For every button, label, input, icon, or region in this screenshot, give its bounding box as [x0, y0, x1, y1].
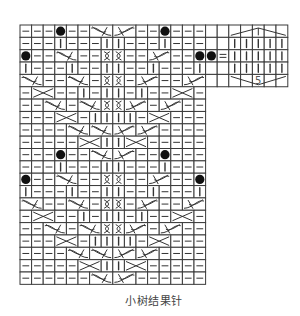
chart-row — [20, 136, 206, 148]
chart-row — [20, 50, 206, 62]
chart-row — [20, 25, 206, 37]
chart-row — [20, 247, 206, 259]
stitch-symbol — [160, 150, 169, 159]
chart-row — [20, 74, 206, 86]
chart-caption: 小树结果针 — [0, 292, 300, 308]
stitch-symbol — [160, 27, 169, 36]
chart-row — [20, 223, 206, 235]
chart-row — [20, 87, 206, 99]
legend-count-label: 5 — [255, 75, 261, 86]
chart-row — [20, 210, 206, 222]
chart-row — [20, 111, 206, 123]
stitch-symbol — [195, 175, 204, 184]
chart-row — [20, 124, 206, 136]
stitch-symbol — [56, 27, 65, 36]
stitch-symbol — [195, 51, 204, 60]
chart-row — [20, 235, 206, 247]
stitch-symbol — [21, 175, 30, 184]
stitch-symbol — [56, 150, 65, 159]
legend-diamond-symbol: 5 — [229, 25, 288, 87]
chart-row — [20, 37, 206, 49]
chart-row — [20, 149, 206, 161]
chart-row — [20, 198, 206, 210]
chart-row — [20, 62, 206, 74]
knitting-chart: 5 — [0, 0, 300, 290]
chart-row — [20, 186, 206, 198]
chart-row — [20, 272, 206, 284]
chart-row — [20, 161, 206, 173]
stitch-symbol — [21, 51, 30, 60]
chart-extension — [206, 25, 229, 87]
chart-row — [20, 173, 206, 185]
chart-row — [20, 260, 206, 272]
main-chart-grid — [20, 25, 206, 284]
chart-row — [20, 99, 206, 111]
